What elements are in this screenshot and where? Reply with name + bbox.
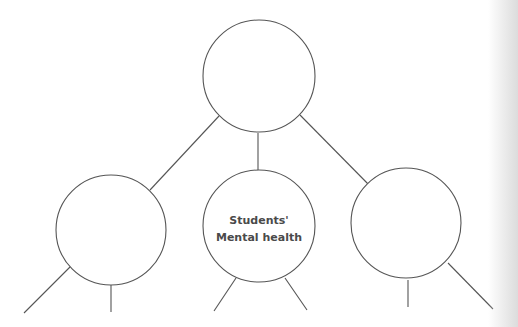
connector-left-child-1	[24, 267, 70, 313]
connector-right-child-2	[448, 263, 493, 309]
center-node-label: Students' Mental health	[209, 212, 309, 246]
diagram-canvas	[0, 0, 518, 327]
root-node-circle	[203, 20, 315, 132]
right-node-circle	[351, 168, 461, 278]
center-node-label-line2: Mental health	[209, 229, 309, 246]
mind-map-diagram: Students' Mental health	[0, 0, 518, 327]
center-node-label-line1: Students'	[209, 212, 309, 229]
left-node-circle	[56, 175, 166, 285]
connector-root-right	[300, 115, 372, 188]
connector-center-child-2	[285, 278, 307, 310]
scan-edge-shading	[488, 0, 518, 327]
connector-center-child-1	[214, 278, 236, 311]
connector-root-left	[150, 116, 219, 190]
